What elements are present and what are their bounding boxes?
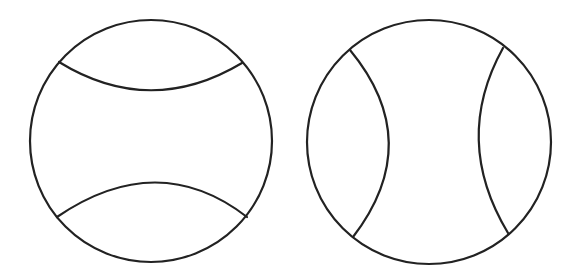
ball-outline bbox=[307, 20, 551, 264]
top-seam bbox=[59, 62, 242, 90]
diagram-canvas bbox=[0, 0, 577, 274]
left-seam bbox=[350, 50, 389, 237]
ball-outline bbox=[30, 20, 272, 262]
bottom-seam bbox=[57, 183, 247, 218]
right-seam bbox=[479, 48, 508, 233]
ball-horizontal-seams bbox=[30, 20, 272, 262]
ball-vertical-seams bbox=[307, 20, 551, 264]
